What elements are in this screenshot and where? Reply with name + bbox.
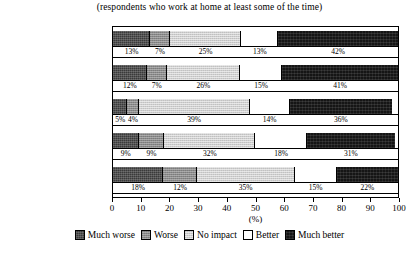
bar-segment-much-better — [307, 133, 395, 148]
x-axis: 0102030405060708090100 — [112, 198, 399, 199]
data-label-row: 9%9%32%18%31% — [113, 148, 398, 160]
data-label-much-worse: 18% — [113, 183, 163, 193]
x-axis-tick — [141, 198, 142, 202]
bar-segment-no-impact — [164, 133, 255, 148]
legend-item-worse[interactable]: Worse — [141, 230, 178, 240]
legend-swatch-worse — [141, 230, 151, 240]
legend-label: Worse — [154, 230, 178, 240]
stacked-bar-chart: (respondents who work at home at least s… — [0, 0, 419, 258]
x-axis-tick-label: 50 — [251, 203, 260, 213]
data-label-worse: 7% — [147, 81, 167, 91]
bar-segment-better — [255, 133, 306, 148]
x-axis-tick-label: 40 — [222, 203, 231, 213]
legend-swatch-better — [243, 230, 253, 240]
x-axis-tick — [370, 198, 371, 202]
bar-segment-much-better — [278, 31, 398, 46]
data-label-much-worse: 13% — [113, 47, 150, 57]
bar-segment-better — [250, 99, 290, 114]
bar-segment-no-impact — [139, 99, 250, 114]
data-label-worse: 12% — [163, 183, 197, 193]
bar-segment-much-better — [337, 167, 398, 182]
bar-segment-better — [241, 31, 278, 46]
bar-segment-better — [240, 65, 282, 80]
x-axis-tick — [227, 198, 228, 202]
data-label-much-better: 42% — [278, 47, 398, 57]
bar-row — [113, 133, 398, 148]
legend-item-much-worse[interactable]: Much worse — [75, 230, 135, 240]
data-label-no-impact: 32% — [164, 149, 255, 159]
bar-segment-no-impact — [197, 167, 295, 182]
legend-item-no-impact[interactable]: No impact — [184, 230, 237, 240]
data-label-much-worse: 9% — [113, 149, 139, 159]
bar-row — [113, 167, 398, 182]
bar-segment-much-better — [282, 65, 398, 80]
data-label-much-better: 41% — [282, 81, 398, 91]
x-axis-tick — [284, 198, 285, 202]
x-axis-tick-label: 60 — [280, 203, 289, 213]
x-axis-tick — [112, 198, 113, 202]
legend-label: No impact — [197, 230, 237, 240]
legend-label: Much better — [298, 230, 344, 240]
bar-segment-no-impact — [167, 65, 240, 80]
bar-segment-much-worse — [113, 167, 163, 182]
bar-segment-much-worse — [113, 65, 147, 80]
x-axis-tick-label: 20 — [165, 203, 174, 213]
legend-swatch-much-better — [285, 230, 295, 240]
data-label-no-impact: 35% — [197, 183, 295, 193]
bar-segment-worse — [163, 167, 197, 182]
x-axis-title: (%) — [112, 214, 399, 224]
legend-label: Better — [256, 230, 279, 240]
bar-segment-much-worse — [113, 31, 150, 46]
data-label-worse: 4% — [127, 115, 138, 125]
chart-subtitle: (respondents who work at home at least s… — [0, 2, 419, 12]
x-axis-tick-label: 10 — [136, 203, 145, 213]
bar-segment-worse — [127, 99, 138, 114]
data-label-much-worse: 12% — [113, 81, 147, 91]
bar-segment-much-worse — [113, 133, 139, 148]
data-label-no-impact: 39% — [139, 115, 250, 125]
x-axis-tick-label: 80 — [337, 203, 346, 213]
plot-area: 13%7%25%13%42%12%7%26%15%41%5%4%39%14%36… — [112, 26, 399, 198]
bar-segment-no-impact — [170, 31, 241, 46]
x-axis-tick-label: 30 — [194, 203, 203, 213]
data-label-no-impact: 26% — [167, 81, 240, 91]
x-axis-tick-label: 0 — [110, 203, 115, 213]
bar-segment-much-worse — [113, 99, 127, 114]
bar-row — [113, 99, 398, 114]
x-axis-tick — [399, 198, 400, 202]
x-axis-tick-label: 100 — [392, 203, 406, 213]
data-label-better: 14% — [250, 115, 290, 125]
bar-segment-worse — [139, 133, 165, 148]
x-axis-tick — [198, 198, 199, 202]
bar-segment-worse — [150, 31, 170, 46]
data-label-much-better: 31% — [307, 149, 395, 159]
data-label-better: 18% — [255, 149, 306, 159]
data-label-much-better: 22% — [337, 183, 398, 193]
legend-item-better[interactable]: Better — [243, 230, 279, 240]
x-axis-tick — [342, 198, 343, 202]
bar-segment-worse — [147, 65, 167, 80]
x-axis-tick-label: 70 — [308, 203, 317, 213]
bar-segment-better — [295, 167, 337, 182]
x-axis-tick — [256, 198, 257, 202]
legend-swatch-no-impact — [184, 230, 194, 240]
chart-legend: Much worseWorseNo impactBetterMuch bette… — [0, 230, 419, 240]
data-label-better: 15% — [295, 183, 337, 193]
legend-label: Much worse — [88, 230, 135, 240]
data-label-better: 13% — [241, 47, 278, 57]
data-label-much-better: 36% — [290, 115, 393, 125]
data-label-no-impact: 25% — [170, 47, 241, 57]
data-label-much-worse: 5% — [113, 115, 127, 125]
x-axis-tick — [313, 198, 314, 202]
data-label-better: 15% — [240, 81, 282, 91]
data-label-worse: 9% — [139, 149, 165, 159]
data-label-row: 13%7%25%13%42% — [113, 46, 398, 58]
legend-item-much-better[interactable]: Much better — [285, 230, 344, 240]
data-label-row: 12%7%26%15%41% — [113, 80, 398, 92]
x-axis-tick — [169, 198, 170, 202]
data-label-row: 18%12%35%15%22% — [113, 182, 398, 194]
data-label-worse: 7% — [150, 47, 170, 57]
bar-row — [113, 65, 398, 80]
legend-swatch-much-worse — [75, 230, 85, 240]
x-axis-tick-label: 90 — [366, 203, 375, 213]
